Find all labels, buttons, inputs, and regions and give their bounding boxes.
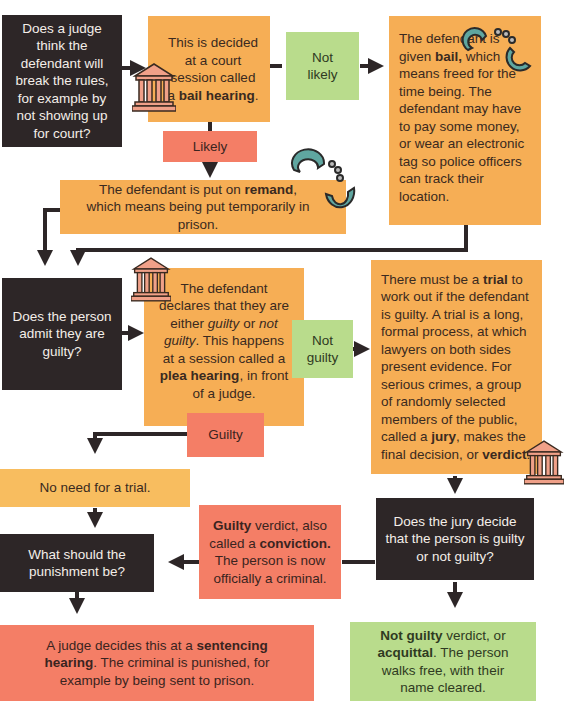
bail-hearing-text: This is decided at a court session calle… (166, 34, 260, 104)
no-trial-text: No need for a trial. (39, 479, 150, 497)
not-likely-text: Not likely (298, 49, 348, 84)
likely-label: Likely (163, 131, 257, 162)
handcuffs-icon (460, 22, 540, 74)
not-guilty-text: Not guilty (303, 332, 343, 367)
handcuffs-icon (290, 148, 368, 228)
likely-text: Likely (193, 138, 228, 156)
conviction-text: Guilty verdict, also called a conviction… (205, 517, 335, 587)
trial-box: There must be a trial to work out if the… (371, 260, 542, 474)
not-likely-label: Not likely (286, 32, 359, 100)
plea-hearing-text: The defendant declares that they are eit… (158, 280, 290, 403)
acquittal-text: Not guilty verdict, or acquittal. The pe… (368, 627, 518, 697)
guilty-text: Guilty (208, 426, 243, 444)
not-guilty-label: Not guilty (292, 320, 353, 378)
guilty-label: Guilty (187, 413, 264, 457)
question-admit-guilt-text: Does the person admit they are guilty? (10, 308, 114, 361)
question-admit-guilt: Does the person admit they are guilty? (2, 278, 122, 390)
question-jury-verdict-text: Does the jury decide that the person is … (384, 513, 526, 566)
question-bail-risk-text: Does a judge think the defendant will br… (8, 20, 116, 143)
acquittal-box: Not guilty verdict, or acquittal. The pe… (350, 622, 536, 701)
question-punishment-text: What should the punishment be? (6, 546, 148, 581)
no-trial-box: No need for a trial. (0, 469, 190, 507)
question-jury-verdict: Does the jury decide that the person is … (376, 498, 534, 580)
courthouse-icon (131, 254, 171, 304)
remand-text: The defendant is put on remand, which me… (80, 181, 316, 234)
question-punishment: What should the punishment be? (0, 534, 154, 592)
question-bail-risk: Does a judge think the defendant will br… (2, 15, 122, 147)
courthouse-icon (524, 438, 564, 486)
sentencing-box: A judge decides this at a sentencing hea… (0, 625, 314, 701)
courthouse-icon (132, 62, 176, 112)
trial-text: There must be a trial to work out if the… (381, 271, 532, 464)
conviction-box: Guilty verdict, also called a conviction… (199, 505, 341, 599)
sentencing-text: A judge decides this at a sentencing hea… (20, 637, 294, 690)
